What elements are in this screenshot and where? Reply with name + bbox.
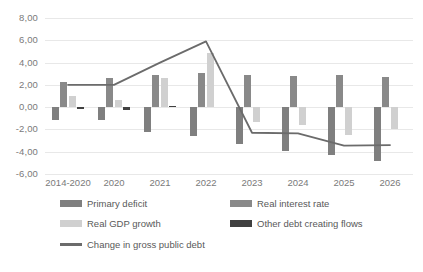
- legend-item[interactable]: Primary deficit: [60, 198, 147, 209]
- legend-item[interactable]: Other debt creating flows: [230, 218, 363, 229]
- legend-color-swatch: [60, 220, 82, 227]
- x-axis-tick-label: 2024: [287, 177, 308, 189]
- legend-item[interactable]: Real interest rate: [230, 198, 329, 209]
- y-axis-labels: 8,006,004,002,000,00-2,00-4,00-6,00: [0, 18, 42, 174]
- x-axis-tick-label: 2025: [333, 177, 354, 189]
- x-axis-labels: 2014-20202020202120222023202420252026: [45, 177, 413, 191]
- x-axis-tick-label: 2023: [241, 177, 262, 189]
- plot-area: [45, 18, 413, 174]
- x-axis-tick-label: 2026: [379, 177, 400, 189]
- y-axis-tick-label: -6,00: [16, 169, 38, 179]
- y-axis-tick-label: -4,00: [16, 147, 38, 157]
- x-axis-tick-label: 2022: [195, 177, 216, 189]
- legend-line-swatch: [60, 243, 82, 246]
- legend-label: Real interest rate: [257, 198, 329, 209]
- x-axis-tick-label: 2014-2020: [45, 177, 90, 189]
- x-axis-tick-label: 2021: [149, 177, 170, 189]
- legend-label: Change in gross public debt: [87, 239, 205, 250]
- y-axis-tick-label: 4,00: [19, 58, 38, 68]
- chart-legend: Primary deficitReal interest rateReal GD…: [60, 198, 400, 268]
- chart-container: 8,006,004,002,000,00-2,00-4,00-6,00 2014…: [0, 0, 423, 272]
- legend-item[interactable]: Real GDP growth: [60, 218, 161, 229]
- legend-color-swatch: [230, 220, 252, 227]
- gridline: [45, 174, 413, 175]
- legend-color-swatch: [60, 200, 82, 207]
- legend-label: Other debt creating flows: [257, 218, 363, 229]
- x-axis-tick-label: 2020: [103, 177, 124, 189]
- legend-item[interactable]: Change in gross public debt: [60, 239, 205, 250]
- line-series-change-in-gross-public-debt: [45, 18, 413, 174]
- y-axis-tick-label: 6,00: [19, 36, 38, 46]
- y-axis-tick-label: 8,00: [19, 13, 38, 23]
- y-axis-tick-label: 2,00: [19, 80, 38, 90]
- y-axis-tick-label: 0,00: [19, 102, 38, 112]
- legend-color-swatch: [230, 200, 252, 207]
- legend-label: Primary deficit: [87, 198, 147, 209]
- y-axis-tick-label: -2,00: [16, 125, 38, 135]
- legend-label: Real GDP growth: [87, 218, 161, 229]
